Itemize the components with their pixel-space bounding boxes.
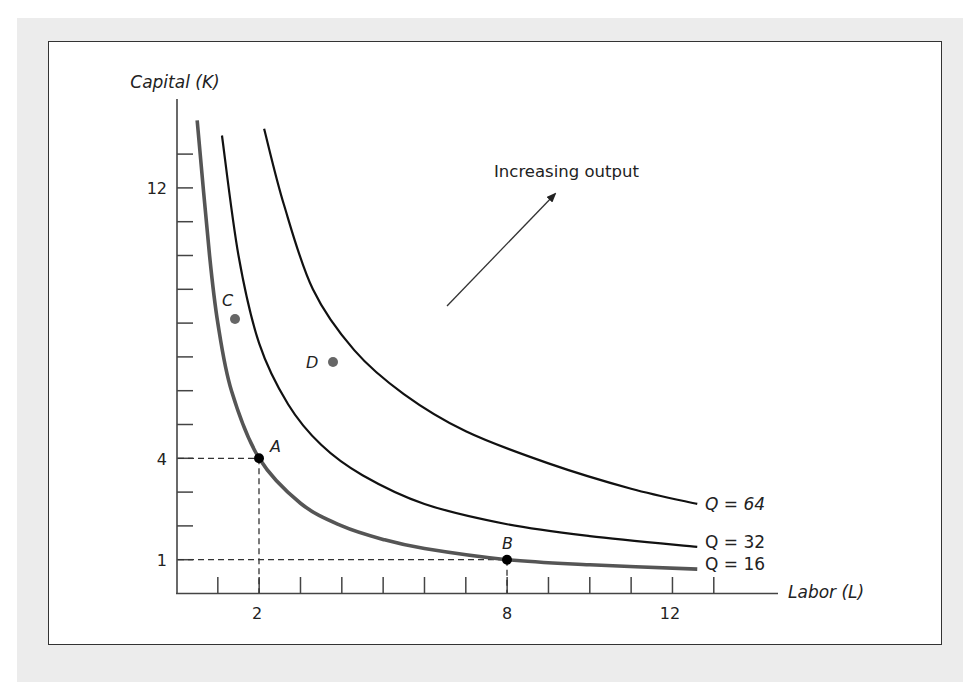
point-b-marker [502,555,512,565]
point-d-label: D [306,353,318,372]
x-tick-label-8: 8 [502,604,512,623]
q16-label-text: Q = 16 [705,554,765,574]
point-c-label: C [222,291,234,310]
q16-label: Q = 16 [705,554,765,574]
point-d-marker [328,357,338,367]
x-axis-label: Labor (L) [788,582,864,602]
isoquant-q32 [222,136,697,547]
point-a-label: A [269,437,281,456]
q32-label-text: Q = 32 [705,532,765,552]
isoquant-q16 [197,120,697,569]
q64-label-text: Q = 64 [705,494,765,514]
y-tick-label-12: 12 [147,179,167,198]
q32-label: Q = 32 [705,532,765,552]
point-b-label: B [502,534,513,553]
y-axis-label: Capital (K) [130,72,219,92]
x-tick-label-2: 2 [252,604,262,623]
x-tick-label-12: 12 [660,604,680,623]
y-tick-label-1: 1 [157,551,167,570]
point-c-marker [230,314,240,324]
isoquant-chart: Capital (K) Labor (L) Increasing output … [0,0,963,682]
increasing-output-arrow [447,194,555,306]
isoquant-q64 [264,129,697,504]
annotation-label: Increasing output [494,162,639,181]
point-a-marker [254,453,264,463]
q64-label: Q = 64 [705,494,765,514]
axes [176,99,778,594]
y-axis-ticks [177,154,193,560]
x-axis-ticks [218,577,714,593]
y-tick-label-4: 4 [157,450,167,469]
